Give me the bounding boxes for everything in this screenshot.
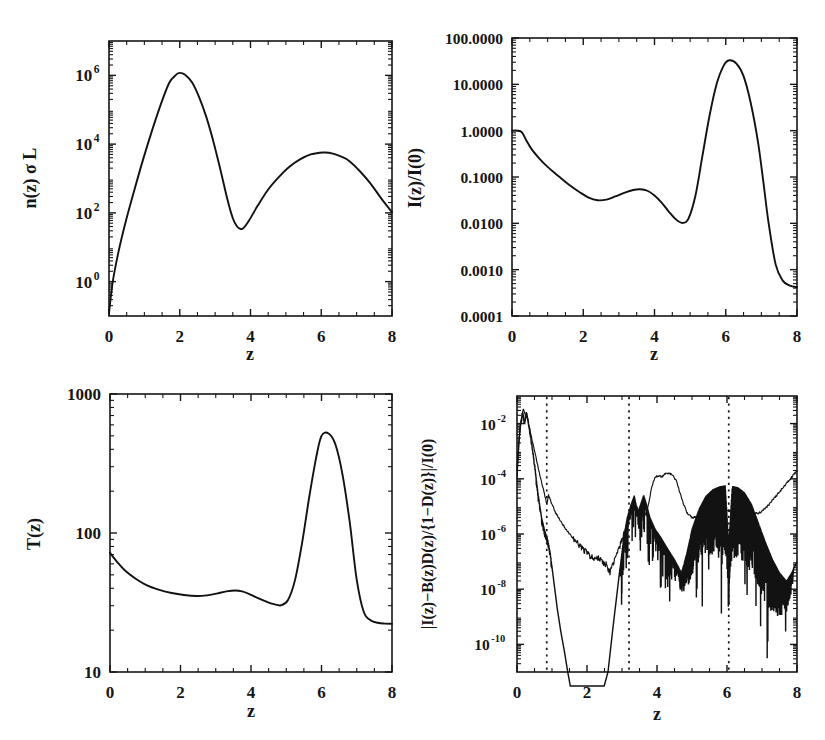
x-tick-label: 2 [176, 327, 185, 346]
y-tick-label: 10 [84, 663, 101, 682]
panel-residual-x-axis-title: z [653, 704, 661, 724]
x-tick-label: 0 [105, 327, 114, 346]
panel-temperature-y-axis-title: T(z) [24, 518, 45, 550]
y-tick-label: 100 [76, 524, 102, 543]
panel-residual-y-axis-title: |I(z)−B(z)D(z)/{1−D(z)}|/I(0) [419, 439, 437, 630]
y-tick-label-mantissa: 10 [480, 416, 496, 433]
x-tick-label: 2 [583, 683, 592, 702]
x-tick-label: 2 [176, 683, 185, 702]
x-tick-label: 4 [247, 683, 256, 702]
y-tick-label-mantissa: 10 [480, 471, 496, 488]
x-tick-label: 4 [653, 683, 662, 702]
panel-temperature-x-axis-title: z [247, 701, 255, 721]
panel-residual: 02468 10-1010-810-610-410-2 z |I(z)−B(z)… [405, 372, 825, 740]
panel-density-x-axis-title: z [246, 344, 254, 364]
x-tick-label: 6 [317, 683, 326, 702]
panel-temperature: 02468 101001000 z T(z) [0, 372, 420, 740]
panel-intensity-x-axis-title: z [650, 344, 658, 364]
panel-intensity-axes [512, 38, 797, 316]
panel-temperature-axes [110, 394, 392, 672]
y-tick-label: 10.0000 [453, 76, 504, 93]
y-tick-label-mantissa: 10 [75, 135, 92, 154]
x-tick-label: 8 [388, 327, 397, 346]
y-tick-label: 0.0001 [460, 308, 503, 325]
x-tick-label: 8 [793, 683, 802, 702]
y-tick-label-exponent: 6 [94, 63, 100, 75]
x-tick-label: 6 [723, 683, 732, 702]
y-tick-label-mantissa: 10 [75, 204, 92, 223]
y-tick-label: 1000 [67, 385, 101, 404]
panel-residual-x-ticklabels: 02468 [513, 683, 802, 702]
x-tick-label: 0 [508, 327, 517, 346]
y-tick-label-exponent: -8 [497, 578, 506, 589]
y-tick-label: 0.0010 [460, 262, 503, 279]
panel-intensity-ticks [512, 38, 797, 316]
y-tick-label-mantissa: 10 [75, 66, 92, 85]
x-tick-label: 6 [317, 327, 326, 346]
temperature-curve [110, 433, 392, 624]
panel-density-ticks [109, 41, 392, 316]
y-tick-label-exponent: -2 [497, 413, 506, 424]
y-tick-label-exponent: 2 [94, 201, 100, 213]
panel-density-y-axis-title: n(z) σ L [20, 148, 41, 209]
panel-temperature-ticks [110, 394, 392, 672]
y-tick-label-exponent: -10 [491, 633, 505, 644]
y-tick-label: 100.0000 [445, 30, 503, 47]
y-tick-label-mantissa: 10 [480, 581, 496, 598]
figure-canvas: 02468 100102104106 z n(z) σ L 02468 0.00… [0, 0, 825, 740]
y-tick-label-exponent: -6 [497, 523, 506, 534]
panel-density-y-ticklabels: 100102104106 [75, 63, 100, 291]
panel-temperature-y-ticklabels: 101001000 [67, 385, 101, 682]
y-tick-label: 0.1000 [460, 169, 503, 186]
x-tick-label: 2 [579, 327, 588, 346]
residual-thick-curve [517, 412, 797, 686]
density-curve [109, 73, 392, 313]
panel-density-axes [109, 41, 392, 316]
x-tick-label: 6 [722, 327, 731, 346]
panel-intensity: 02468 0.00010.00100.01000.10001.000010.0… [405, 0, 825, 370]
y-tick-label-mantissa: 10 [480, 526, 496, 543]
y-tick-label: 0.0100 [460, 215, 503, 232]
y-tick-label-exponent: -4 [497, 468, 506, 479]
y-tick-label-mantissa: 10 [75, 273, 92, 292]
y-tick-label: 1.0000 [460, 123, 503, 140]
y-tick-label-exponent: 0 [94, 270, 100, 282]
x-tick-label: 8 [793, 327, 802, 346]
x-tick-label: 8 [388, 683, 397, 702]
intensity-curve [512, 60, 797, 287]
y-tick-label-exponent: 4 [94, 132, 100, 144]
x-tick-label: 0 [106, 683, 115, 702]
panel-temperature-x-ticklabels: 02468 [106, 683, 397, 702]
x-tick-label: 0 [513, 683, 522, 702]
panel-density: 02468 100102104106 z n(z) σ L [0, 0, 420, 370]
panel-intensity-y-axis-title: I(z)/I(0) [405, 148, 426, 208]
panel-intensity-y-ticklabels: 0.00010.00100.01000.10001.000010.0000100… [445, 30, 503, 325]
panel-residual-y-ticklabels: 10-1010-810-610-410-2 [474, 413, 507, 654]
y-tick-label-mantissa: 10 [474, 636, 490, 653]
